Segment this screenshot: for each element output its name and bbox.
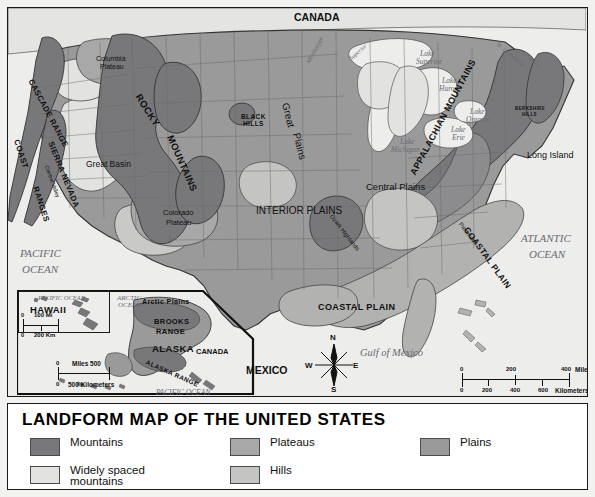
main-scale-km-0: 0 [460, 387, 463, 393]
hawaii-scale-km-0: 0 [21, 332, 24, 338]
compass-south-label: S [331, 385, 336, 394]
legend-item-mountains[interactable]: Mountains [30, 437, 220, 461]
compass-east-label: E [353, 361, 358, 370]
main-scale-km-400: 400 [510, 387, 520, 393]
map-legend: LANDFORM MAP OF THE UNITED STATES Mounta… [7, 403, 588, 490]
main-scale-mi-200: 200 [506, 366, 516, 372]
compass-rose: N E S W [308, 334, 360, 396]
landform-map-page: CANADAMEXICOCANADAPACIFICOCEANATLANTICOC… [0, 0, 595, 497]
main-scale-miles-label: Miles [575, 366, 588, 373]
legend-title: LANDFORM MAP OF THE UNITED STATES [22, 410, 386, 430]
main-scale-mi-0: 0 [460, 366, 463, 372]
legend-item-plateaus[interactable]: Plateaus [230, 437, 410, 461]
alaska-scale-mi-0: 0 [56, 360, 59, 366]
main-scale-bar: 0 200 400 Miles 0 200 400 600 Kilometers [458, 367, 586, 395]
alaska-scale-bar: 0 Miles 500 0 500 Kilometers [54, 360, 174, 388]
legend-item-plains[interactable]: Plains [420, 437, 580, 461]
legend-column-2: PlateausHills [230, 437, 410, 493]
region-rocky-mountains-east [154, 62, 201, 133]
legend-column-1: MountainsWidely spaced mountains [30, 437, 220, 493]
hawaii-scale-km-label: 200 Km [34, 332, 55, 338]
main-scale-km-label: Kilometers [555, 387, 588, 394]
main-scale-mi-400: 400 [561, 366, 571, 372]
compass-west-label: W [305, 361, 313, 370]
legend-swatch-plains [420, 438, 450, 456]
alaska-scale-km-label: 500 Kilometers [68, 381, 114, 388]
legend-swatch-widely-spaced-mountains [30, 466, 60, 484]
legend-swatch-mountains [30, 438, 60, 456]
hawaii-scale-bar: 0 100 Mi 0 200 Km [20, 313, 90, 339]
hawaii-scale-mi-0: 0 [21, 312, 24, 318]
alaska-scale-miles-label: Miles 500 [72, 360, 101, 367]
legend-label-hills: Hills [270, 465, 292, 476]
legend-item-hills[interactable]: Hills [230, 465, 410, 489]
legend-label-mountains: Mountains [70, 437, 123, 448]
map-frame: CANADAMEXICOCANADAPACIFICOCEANATLANTICOC… [7, 7, 588, 397]
legend-column-3: Plains [420, 437, 580, 465]
legend-swatch-plateaus [230, 438, 260, 456]
alaska-scale-km-0: 0 [56, 381, 59, 387]
legend-swatch-hills [230, 466, 260, 484]
map-graphic [8, 8, 586, 395]
lake-ontario-shape [454, 101, 486, 123]
region-black-hills [229, 103, 255, 125]
hawaii-scale-mi-label: 100 Mi [34, 312, 52, 318]
legend-label-widely-spaced-mountains: Widely spaced mountains [70, 465, 145, 487]
compass-north-label: N [330, 333, 336, 342]
legend-label-plateaus: Plateaus [270, 437, 315, 448]
legend-item-widely-spaced-mountains[interactable]: Widely spaced mountains [30, 465, 220, 489]
main-scale-km-200: 200 [482, 387, 492, 393]
legend-label-plains: Plains [460, 437, 491, 448]
region-hills-central [239, 162, 296, 209]
main-scale-km-600: 600 [538, 387, 548, 393]
